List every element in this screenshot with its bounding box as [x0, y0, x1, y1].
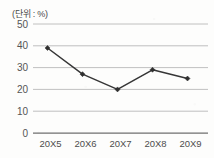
line-chart-plot: 01020304050 20X520X620X720X820X9 [0, 0, 214, 158]
y-axis-tick-labels: 01020304050 [17, 19, 29, 139]
y-axis-tick-label: 10 [17, 106, 29, 117]
x-axis-tick-label: 20X5 [40, 138, 62, 149]
y-axis-tick-label: 40 [17, 40, 29, 51]
series-line [48, 48, 188, 89]
data-point-markers [45, 45, 190, 91]
x-axis-tick-label: 20X9 [180, 138, 202, 149]
y-axis-tick-label: 50 [17, 19, 29, 30]
gridlines-group [33, 24, 208, 133]
y-axis-tick-label: 30 [17, 62, 29, 73]
x-axis-tick-labels: 20X520X620X720X820X9 [40, 138, 202, 149]
y-axis-tick-label: 0 [22, 128, 28, 139]
chart-screenshot: (단위 : %) 01020304050 20X520X620X720X820X… [0, 0, 214, 158]
x-axis-tick-label: 20X6 [75, 138, 97, 149]
data-point-marker [185, 76, 190, 81]
y-axis-tick-label: 20 [17, 84, 29, 95]
x-axis-tick-label: 20X8 [145, 138, 167, 149]
x-axis-tick-label: 20X7 [110, 138, 132, 149]
